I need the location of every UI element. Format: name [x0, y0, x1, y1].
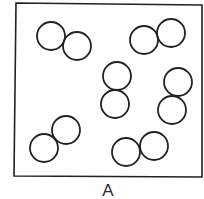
diatomic-molecule — [112, 132, 168, 166]
diatomic-molecule — [158, 68, 192, 124]
atom-circle — [157, 19, 185, 47]
atom-circle — [164, 68, 192, 96]
diatomic-molecule — [101, 62, 131, 118]
atom-circle — [63, 32, 91, 60]
molecules-group — [30, 19, 192, 166]
diatomic-molecule — [37, 22, 91, 60]
atom-circle — [112, 138, 140, 166]
atom-circle — [101, 90, 129, 118]
molecule-diagram — [0, 0, 204, 199]
atom-circle — [30, 134, 58, 162]
diatomic-molecule — [30, 116, 80, 162]
atom-circle — [103, 62, 131, 90]
atom-circle — [130, 26, 158, 54]
atom-circle — [140, 132, 168, 160]
diagram-label: A — [0, 183, 204, 199]
diatomic-molecule — [130, 19, 185, 54]
atom-circle — [158, 96, 186, 124]
atom-circle — [37, 22, 65, 50]
